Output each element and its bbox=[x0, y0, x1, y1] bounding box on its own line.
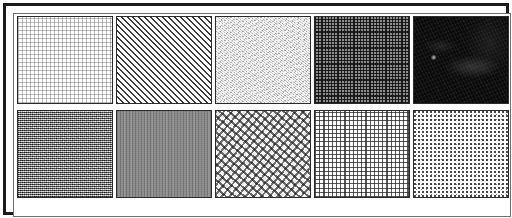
texture-tile-coarse-blob-speckle: Coarse blob speckle bbox=[215, 110, 311, 198]
swatch-coarse-blob-speckle bbox=[216, 111, 310, 197]
swatch-sparse-dots bbox=[414, 111, 508, 197]
texture-tile-sparse-dots: Sparse dots bbox=[413, 110, 509, 198]
texture-tile-light-grain: Light grain bbox=[215, 16, 311, 104]
texture-tile-diagonal-hatch: Diagonal hatch bbox=[116, 16, 212, 104]
swatch-near-black-mottle bbox=[414, 17, 508, 103]
swatch-salt-pepper-noise bbox=[18, 111, 112, 197]
texture-tile-near-black-mottle: Near-black mottle bbox=[413, 16, 509, 104]
swatch-gray-striation bbox=[117, 111, 211, 197]
texture-plate-figure: Fine dot grid Diagonal hatch Light grain… bbox=[0, 0, 512, 218]
swatch-diagonal-hatch bbox=[117, 17, 211, 103]
texture-tile-fine-dot-grid: Fine dot grid bbox=[17, 16, 113, 104]
swatch-light-crosshatch bbox=[315, 111, 409, 197]
texture-tile-grid: Fine dot grid Diagonal hatch Light grain… bbox=[17, 16, 507, 214]
texture-tile-salt-pepper-noise: Salt and pepper noise bbox=[17, 110, 113, 198]
texture-tile-gray-striation: Gray striation bbox=[116, 110, 212, 198]
plate-outer-frame: Fine dot grid Diagonal hatch Light grain… bbox=[3, 3, 509, 215]
swatch-dark-crosshatch bbox=[315, 17, 409, 103]
swatch-fine-dot-grid bbox=[18, 17, 112, 103]
texture-tile-dark-crosshatch: Dark crosshatch bbox=[314, 16, 410, 104]
texture-tile-light-crosshatch: Light crosshatch bbox=[314, 110, 410, 198]
swatch-light-grain bbox=[216, 17, 310, 103]
